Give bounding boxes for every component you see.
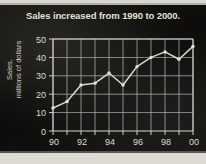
y-tick-label-30: 30 bbox=[36, 71, 46, 81]
y-tick-label-0: 0 bbox=[41, 127, 46, 137]
plot-area: 50 40 30 20 10 0 90 92 94 96 98 00 bbox=[0, 3, 206, 153]
data-point bbox=[163, 50, 166, 53]
y-tick-label-50: 50 bbox=[36, 35, 46, 45]
chart-plate: Sales increased from 1990 to 2000. Sales… bbox=[0, 3, 206, 153]
x-tick-label-92: 92 bbox=[77, 137, 87, 147]
y-tick-label-20: 20 bbox=[36, 90, 46, 100]
data-point bbox=[65, 100, 68, 103]
y-tick-label-10: 10 bbox=[36, 108, 46, 118]
page-bottom-strip bbox=[0, 153, 206, 164]
y-tick-marks bbox=[49, 39, 53, 131]
data-point bbox=[121, 83, 124, 86]
x-tick-label-90: 90 bbox=[49, 137, 59, 147]
x-tick-label-96: 96 bbox=[133, 137, 143, 147]
data-point bbox=[79, 83, 82, 86]
x-tick-marks bbox=[53, 131, 193, 135]
data-point bbox=[93, 81, 96, 84]
data-point bbox=[149, 56, 152, 59]
data-point bbox=[107, 71, 110, 74]
y-tick-label-40: 40 bbox=[36, 53, 46, 63]
data-point bbox=[51, 106, 54, 109]
x-tick-label-94: 94 bbox=[105, 137, 115, 147]
data-point bbox=[135, 65, 138, 68]
x-tick-label-00: 00 bbox=[189, 137, 199, 147]
chart-screenshot: Sales increased from 1990 to 2000. Sales… bbox=[0, 0, 206, 164]
x-tick-label-98: 98 bbox=[161, 137, 171, 147]
data-point bbox=[191, 45, 194, 48]
data-point bbox=[177, 58, 180, 61]
